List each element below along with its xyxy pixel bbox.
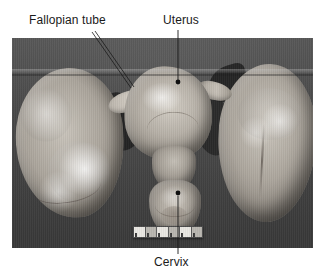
left-mass-lobe-upper (18, 86, 74, 143)
figure-root: Fallopian tube Uterus Cervix (0, 0, 329, 278)
label-fallopian-tube: Fallopian tube (29, 14, 106, 27)
scale-bar-ruler (133, 226, 203, 238)
scan-artifact-band (12, 69, 313, 73)
ruler-segment (192, 227, 203, 237)
uterus-surface-fold (146, 110, 200, 148)
label-cervix: Cervix (154, 256, 189, 269)
ruler-segment (180, 227, 192, 237)
label-uterus: Uterus (163, 14, 199, 27)
cervical-os (161, 206, 187, 224)
right-mass-lobe (236, 86, 303, 141)
ruler-segment (169, 227, 181, 237)
specimen-photograph (12, 38, 313, 248)
scan-artifact-band-dark (12, 74, 313, 76)
ruler-segment (157, 227, 169, 237)
ruler-segment (146, 227, 158, 237)
ruler-segment (134, 227, 146, 237)
